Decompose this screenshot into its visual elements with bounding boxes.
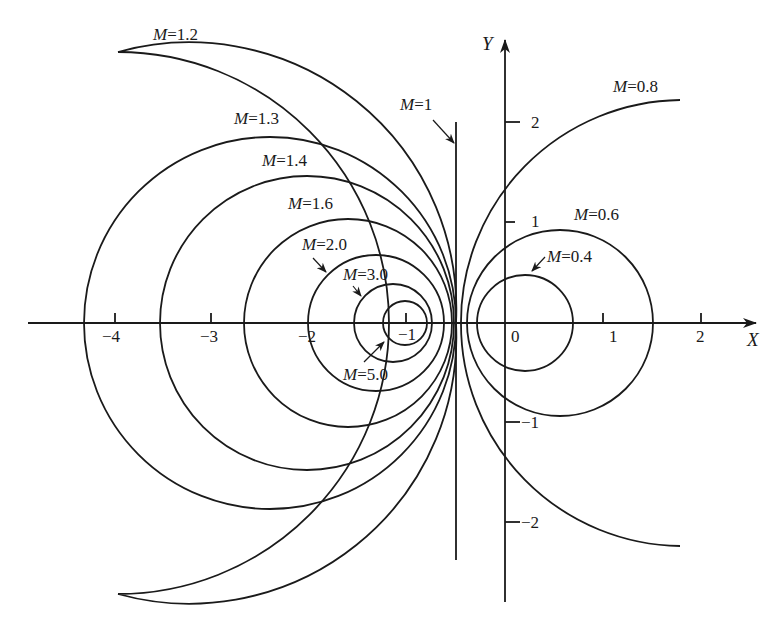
x-ticks: −4 −3 −2 −1 0 1 2: [102, 313, 705, 346]
x-tick-label: 0: [511, 327, 520, 346]
y-tick-label: 1: [531, 212, 540, 231]
x-axis-label: X: [746, 329, 760, 350]
label-m-1-3: M=1.3: [233, 109, 279, 128]
y-axis-label: Y: [482, 33, 495, 54]
x-tick-label: −1: [398, 325, 416, 344]
arrow-m-3-0: [353, 286, 361, 296]
x-tick-label: −4: [102, 327, 121, 346]
x-tick-label: −3: [200, 327, 218, 346]
x-tick-label: −2: [298, 327, 316, 346]
m-circles-plot: X Y −4 −3 −2 −1 0 1 2 2 1 −1 −2: [0, 0, 779, 619]
label-m-1-6: M=1.6: [287, 194, 333, 213]
label-m-0-8: M=0.8: [612, 77, 658, 96]
label-m-1-2: M=1.2: [152, 25, 198, 44]
label-m-0-6: M=0.6: [573, 205, 619, 224]
label-m-0-4: M=0.4: [546, 247, 593, 266]
label-m-1: M=1: [399, 95, 432, 114]
x-tick-label: 1: [609, 327, 618, 346]
y-tick-label: 2: [531, 113, 540, 132]
arrow-m-0-4: [532, 257, 545, 271]
arrow-m-2-0: [313, 258, 326, 272]
x-tick-label: 2: [696, 327, 705, 346]
m-circles-figure: X Y −4 −3 −2 −1 0 1 2 2 1 −1 −2: [0, 0, 779, 619]
label-m-3-0: M=3.0: [342, 265, 388, 284]
arrow-m-1: [433, 120, 454, 143]
label-m-2-0: M=2.0: [301, 235, 347, 254]
y-tick-label: −2: [521, 513, 539, 532]
label-m-1-4: M=1.4: [261, 151, 308, 170]
y-tick-label: −1: [521, 413, 539, 432]
label-m-5-0: M=5.0: [342, 365, 388, 384]
